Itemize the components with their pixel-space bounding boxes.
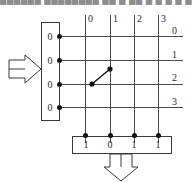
input-register-cell-1: 0 (42, 55, 58, 66)
input-node-dot-3 (57, 105, 62, 110)
output-register-cell-0: 1 (78, 139, 94, 150)
column-label-0: 0 (88, 13, 100, 24)
output-node-dot-2 (132, 133, 137, 138)
row-label-0: 0 (172, 25, 184, 36)
diagram-canvas: ██████ ████████ ██ █ ██ █ █ █ █ █ 0 1 2 … (0, 0, 195, 182)
input-register-cell-0: 0 (42, 31, 58, 42)
row-label-2: 2 (172, 72, 184, 83)
column-label-1: 1 (113, 13, 125, 24)
grid-row-line-3 (58, 107, 183, 108)
input-node-dot-2 (57, 82, 62, 87)
output-register-cell-3: 1 (150, 139, 166, 150)
input-node-dot-0 (57, 34, 62, 39)
row-label-1: 1 (172, 49, 184, 60)
grid-column-line-2 (134, 15, 135, 143)
input-register-cell-2: 0 (42, 79, 58, 90)
output-register-cell-2: 1 (126, 139, 142, 150)
input-register-cell-3: 0 (42, 102, 58, 113)
grid-column-line-3 (158, 15, 159, 143)
output-node-dot-1 (108, 133, 113, 138)
column-label-2: 2 (137, 13, 149, 24)
clipped-header-text: ██████ ████████ ██ █ ██ █ █ █ █ █ (0, 0, 195, 7)
column-label-3: 3 (161, 13, 173, 24)
output-node-dot-3 (156, 133, 161, 138)
grid-row-line-1 (58, 60, 183, 61)
output-register-cell-1: 0 (102, 139, 118, 150)
row-label-3: 3 (172, 96, 184, 107)
grid-row-line-0 (58, 36, 183, 37)
grid-column-line-0 (85, 15, 86, 143)
output-node-dot-0 (83, 133, 88, 138)
left-input-arrow (8, 54, 44, 88)
diagonal-switch-connector[interactable] (88, 64, 116, 88)
input-node-dot-1 (57, 58, 62, 63)
down-output-arrow (103, 153, 141, 182)
grid-row-line-2 (58, 84, 183, 85)
